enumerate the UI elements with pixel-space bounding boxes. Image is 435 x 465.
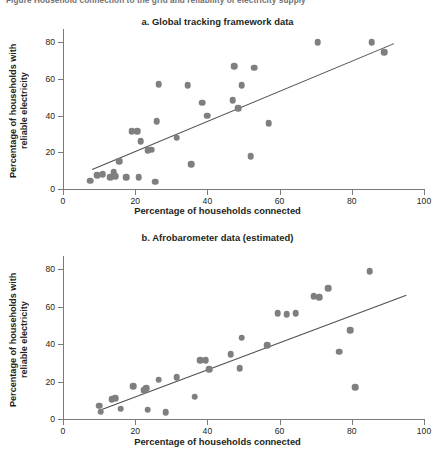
- panel-b-data-point: [316, 294, 323, 301]
- panel-a-trend-line: [92, 43, 394, 170]
- panel-a-data-point: [136, 174, 143, 181]
- panel-a-y-tick-label: 20: [45, 147, 55, 157]
- panel-a-data-point: [199, 99, 206, 106]
- panel-a-data-point: [116, 158, 123, 165]
- panel-b-title: b. Afrobarometer data (estimated): [0, 232, 435, 243]
- panel-b-y-tick: [58, 344, 63, 345]
- panel-b-y-axis-title: Percentage of households with reliable e…: [8, 260, 30, 419]
- panel-a-data-point: [154, 118, 161, 125]
- panel-b-data-point: [293, 310, 300, 317]
- panel-a-data-point: [314, 39, 321, 46]
- panel-b-data-point: [238, 334, 245, 341]
- panel-a-data-point: [251, 65, 258, 72]
- panel-a-x-axis-line: [62, 189, 425, 190]
- panel-a-data-point: [173, 134, 180, 141]
- panel-a-data-point: [188, 161, 195, 168]
- panel-b-x-tick-label: 80: [347, 426, 357, 436]
- panel-a-y-tick-label: 80: [45, 37, 55, 47]
- panel-a-data-point: [184, 82, 191, 89]
- figure-container: Figure Household connection to the grid …: [0, 0, 435, 465]
- panel-a-y-axis-line: [63, 29, 64, 190]
- panel-b-y-tick-label: 20: [45, 377, 55, 387]
- panel-b-data-point: [163, 409, 170, 416]
- panel-b-data-point: [143, 385, 150, 392]
- panel-b-data-point: [130, 383, 137, 390]
- panel-a-y-tick: [58, 152, 63, 153]
- panel-b-y-tick-label: 40: [45, 339, 55, 349]
- panel-b-data-point: [112, 395, 119, 402]
- panel-b-plot-area: 020406080020406080100: [63, 260, 424, 419]
- panel-b-x-tick: [135, 420, 136, 425]
- panel-a-data-point: [148, 146, 155, 153]
- panel-a-data-point: [204, 112, 211, 119]
- panel-a-x-axis-title: Percentage of households connected: [0, 205, 435, 216]
- panel-b-x-tick: [424, 420, 425, 425]
- panel-b-x-tick: [352, 420, 353, 425]
- panel-a-x-tick: [135, 190, 136, 195]
- panel-a-y-tick-label: 0: [50, 184, 55, 194]
- panel-a-data-point: [247, 153, 254, 160]
- panel-b-data-point: [264, 342, 271, 349]
- panel-b-x-tick-label: 20: [130, 426, 140, 436]
- panel-a-data-point: [381, 49, 388, 56]
- panel-b-x-tick: [207, 420, 208, 425]
- panel-b-data-point: [206, 366, 213, 373]
- panel-b-y-axis-line: [63, 256, 64, 420]
- panel-a-x-tick: [63, 190, 64, 195]
- panel-a-data-point: [155, 81, 162, 88]
- panel-a-x-tick: [352, 190, 353, 195]
- panel-b-y-tick-label: 60: [45, 302, 55, 312]
- panel-a-y-tick-label: 60: [45, 74, 55, 84]
- panel-a-data-point: [134, 128, 141, 135]
- panel-a-data-point: [112, 173, 119, 180]
- panel-a-data-point: [265, 120, 272, 127]
- panel-b-data-point: [202, 357, 209, 364]
- panel-b-data-point: [237, 365, 244, 372]
- panel-b-x-tick-label: 60: [275, 426, 285, 436]
- panel-a-data-point: [152, 178, 159, 185]
- panel-b-y-tick-label: 80: [45, 264, 55, 274]
- panel-b-x-tick: [63, 420, 64, 425]
- panel-a-data-point: [238, 82, 245, 89]
- panel-a-data-point: [235, 105, 242, 112]
- panel-a-x-tick: [207, 190, 208, 195]
- panel-b-x-axis-title: Percentage of households connected: [0, 436, 435, 447]
- panel-a-data-point: [231, 63, 238, 70]
- panel-a-data-point: [368, 39, 375, 46]
- panel-b-data-point: [347, 327, 354, 334]
- panel-b-data-point: [155, 376, 162, 383]
- panel-a-y-tick-label: 40: [45, 111, 55, 121]
- panel-a-title: a. Global tracking framework data: [0, 16, 435, 27]
- panel-b-data-point: [367, 268, 374, 275]
- panel-b-data-point: [352, 384, 359, 391]
- panel-b-data-point: [98, 408, 105, 415]
- panel-a-data-point: [87, 177, 94, 184]
- panel-b-y-tick: [58, 269, 63, 270]
- panel-a-x-tick: [424, 190, 425, 195]
- chart-panel-b: b. Afrobarometer data (estimated) Percen…: [0, 228, 435, 453]
- panel-a-data-point: [123, 174, 130, 181]
- panel-a-data-point: [99, 171, 106, 178]
- panel-a-data-point: [229, 97, 236, 104]
- panel-b-data-point: [228, 351, 235, 358]
- panel-b-data-point: [325, 285, 332, 292]
- panel-a-x-tick: [280, 190, 281, 195]
- panel-a-plot-area: 020406080020406080100: [63, 33, 424, 189]
- panel-a-data-point: [137, 138, 144, 145]
- panel-b-data-point: [117, 405, 124, 412]
- panel-a-y-tick: [58, 79, 63, 80]
- panel-b-data-point: [173, 374, 180, 381]
- panel-b-y-tick-label: 0: [50, 414, 55, 424]
- panel-b-x-tick-label: 100: [417, 426, 431, 436]
- panel-b-x-axis-line: [62, 419, 425, 420]
- panel-b-x-tick: [280, 420, 281, 425]
- panel-b-y-tick: [58, 307, 63, 308]
- panel-a-y-tick: [58, 116, 63, 117]
- panel-b-data-point: [284, 311, 291, 318]
- panel-b-data-point: [191, 393, 198, 400]
- panel-b-data-point: [145, 406, 152, 413]
- panel-b-x-tick-label: 0: [61, 426, 66, 436]
- panel-a-y-axis-title: Percentage of households with reliable e…: [8, 33, 30, 189]
- panel-b-data-point: [274, 310, 281, 317]
- panel-b-data-point: [336, 348, 343, 355]
